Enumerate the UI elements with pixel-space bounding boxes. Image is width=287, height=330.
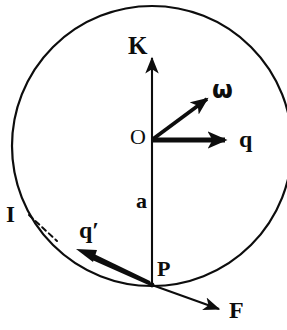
q-prime-label: q′ [79,218,99,242]
force-f-label: F [229,298,244,322]
omega-label: ω [212,78,233,102]
radius-a-label: a [136,190,147,212]
surface-point-p-marker [150,283,155,288]
omega-arrow [153,99,207,139]
k-axis-label: K [128,33,148,58]
point-p-label: P [157,258,170,280]
force-f-arrow [152,285,219,309]
origin-label: O [130,126,146,148]
incident-i-leader-line [29,215,57,241]
incident-i-label: I [6,203,15,226]
q-vector-label: q [239,127,252,151]
physics-vector-diagram: K ω O q a I q′ P F [0,0,287,330]
